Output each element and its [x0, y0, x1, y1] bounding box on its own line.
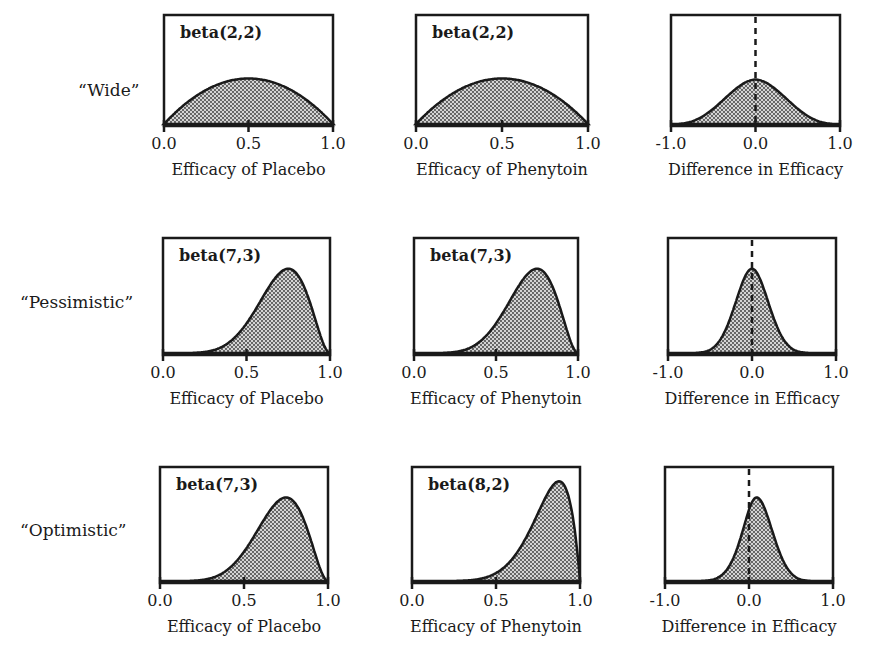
tick-label: 0.0: [401, 363, 426, 382]
density-curve: [163, 269, 330, 353]
tick-label: -1.0: [656, 134, 687, 153]
density-curve: [414, 269, 578, 353]
tick-label: 0.5: [236, 134, 261, 153]
tick-label: 1.0: [820, 591, 845, 610]
tick-label: 1.0: [827, 134, 852, 153]
row-label-pessimistic: “Pessimistic”: [20, 292, 133, 312]
tick-label: 1.0: [317, 363, 342, 382]
row-label-wide: “Wide”: [78, 80, 139, 100]
density-plot: [668, 238, 836, 365]
chart-panel: beta(7,3)0.00.51.0Efficacy of Placebo: [163, 238, 330, 355]
tick-label: -1.0: [653, 363, 684, 382]
tick-label: -1.0: [650, 591, 681, 610]
chart-panel: beta(8,2)0.00.51.0Efficacy of Phenytoin: [412, 467, 580, 583]
x-axis-title: Efficacy of Placebo: [171, 160, 325, 179]
chart-panel: beta(7,3)0.00.51.0Efficacy of Phenytoin: [414, 238, 578, 355]
tick-label: 0.0: [147, 591, 172, 610]
tick-label: 0.5: [231, 591, 256, 610]
density-plot: [665, 467, 833, 593]
tick-label: 0.0: [399, 591, 424, 610]
density-curve: [160, 498, 328, 582]
tick-label: 0.0: [739, 363, 764, 382]
x-axis-title: Difference in Efficacy: [668, 160, 843, 179]
tick-label: 0.0: [151, 134, 176, 153]
tick-label: 0.0: [403, 134, 428, 153]
tick-label: 0.0: [743, 134, 768, 153]
x-axis-title: Efficacy of Phenytoin: [410, 389, 582, 408]
tick-label: 1.0: [567, 591, 592, 610]
distribution-label: beta(7,3): [430, 246, 512, 265]
tick-label: 1.0: [823, 363, 848, 382]
distribution-label: beta(2,2): [432, 23, 514, 42]
distribution-label: beta(7,3): [176, 475, 258, 494]
tick-label: 0.5: [483, 591, 508, 610]
tick-label: 0.0: [150, 363, 175, 382]
distribution-label: beta(2,2): [180, 23, 262, 42]
x-axis-title: Difference in Efficacy: [662, 617, 837, 636]
chart-panel: beta(7,3)0.00.51.0Efficacy of Placebo: [160, 467, 328, 583]
x-axis-title: Efficacy of Phenytoin: [416, 160, 588, 179]
tick-label: 0.0: [736, 591, 761, 610]
chart-panel: -1.00.01.0Difference in Efficacy: [668, 238, 836, 355]
tick-label: 1.0: [315, 591, 340, 610]
chart-panel: -1.00.01.0Difference in Efficacy: [671, 15, 840, 126]
tick-label: 0.5: [489, 134, 514, 153]
density-curve: [416, 79, 588, 125]
x-axis-title: Efficacy of Phenytoin: [410, 617, 582, 636]
x-axis-title: Efficacy of Placebo: [167, 617, 321, 636]
tick-label: 0.5: [234, 363, 259, 382]
x-axis-title: Difference in Efficacy: [665, 389, 840, 408]
chart-panel: beta(2,2)0.00.51.0Efficacy of Placebo: [164, 15, 333, 126]
density-plot: [671, 15, 840, 136]
distribution-label: beta(7,3): [179, 246, 261, 265]
chart-panel: -1.00.01.0Difference in Efficacy: [665, 467, 833, 583]
tick-label: 0.5: [483, 363, 508, 382]
x-axis-title: Efficacy of Placebo: [169, 389, 323, 408]
chart-panel: beta(2,2)0.00.51.0Efficacy of Phenytoin: [416, 15, 588, 126]
row-label-optimistic: “Optimistic”: [20, 520, 127, 540]
tick-label: 1.0: [565, 363, 590, 382]
density-curve: [164, 79, 333, 125]
density-curve: [412, 481, 580, 581]
tick-label: 1.0: [575, 134, 600, 153]
distribution-label: beta(8,2): [428, 475, 510, 494]
tick-label: 1.0: [320, 134, 345, 153]
